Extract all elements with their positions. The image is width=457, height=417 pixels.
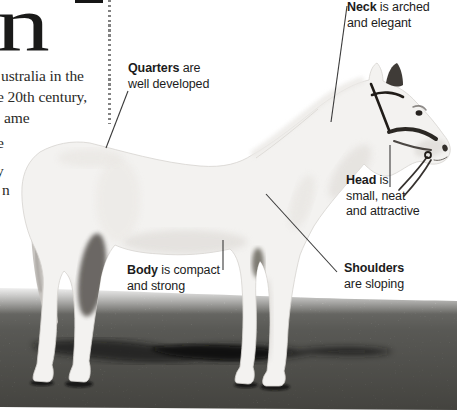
annotation-shoulders: Shoulders are sloping bbox=[344, 261, 404, 292]
annotation-term: Head bbox=[346, 173, 376, 187]
annotation-neck: Neck is arched and elegant bbox=[347, 0, 430, 31]
annotation-term: Body bbox=[127, 263, 158, 277]
annotation-quarters: Quarters are well developed bbox=[128, 61, 209, 92]
annotation-head: Head is small, neat and attractive bbox=[346, 173, 420, 220]
annotation-term: Quarters bbox=[128, 61, 179, 75]
horse-ear-icon bbox=[386, 63, 403, 86]
annotation-term: Shoulders bbox=[344, 261, 404, 275]
horse-eye-icon bbox=[416, 110, 423, 116]
annotation-body: Body is compact and strong bbox=[127, 263, 220, 294]
book-page: n ustralia in the e 20th century, ame e … bbox=[0, 0, 457, 417]
quarters-leader-line bbox=[106, 91, 128, 148]
annotation-term: Neck bbox=[347, 0, 376, 14]
